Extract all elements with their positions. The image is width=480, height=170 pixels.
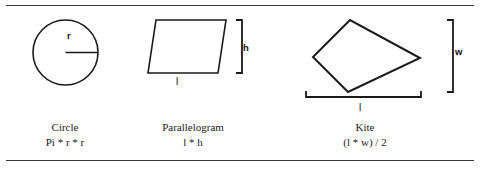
kite-width-bracket	[447, 20, 453, 92]
circle-caption: Circle Pi * r * r	[5, 120, 125, 150]
kite-caption-formula: (l * w) / 2	[305, 135, 425, 150]
kite-length-label: l	[359, 103, 361, 113]
kite-figure	[306, 20, 453, 97]
circle-figure	[33, 20, 98, 85]
circle-caption-formula: Pi * r * r	[5, 135, 125, 150]
parallelogram-caption: Parallelogram l * h	[133, 120, 253, 150]
circle-radius-label: r	[67, 31, 71, 41]
kite-caption-name: Kite	[305, 120, 425, 135]
parallelogram-height-bracket	[236, 20, 242, 73]
geometry-formula-sheet: r h l w l Circle Pi * r * r Parallelogra…	[0, 0, 480, 170]
kite-outline	[313, 20, 420, 92]
parallelogram-caption-name: Parallelogram	[133, 120, 253, 135]
parallelogram-height-label: h	[243, 43, 249, 53]
parallelogram-outline	[148, 20, 226, 73]
circle-caption-name: Circle	[5, 120, 125, 135]
parallelogram-length-label: l	[176, 77, 178, 87]
parallelogram-figure	[148, 20, 242, 73]
parallelogram-caption-formula: l * h	[133, 135, 253, 150]
kite-width-label: w	[455, 47, 462, 57]
kite-caption: Kite (l * w) / 2	[305, 120, 425, 150]
kite-length-bracket	[306, 91, 421, 97]
